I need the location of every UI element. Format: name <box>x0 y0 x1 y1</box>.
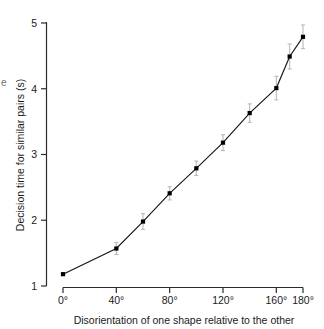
y-axis: 12345 Decision time for similar pairs (s… <box>14 17 47 292</box>
data-point-marker <box>288 54 292 58</box>
y-axis-ticks <box>41 23 47 286</box>
partial-figure-label: e <box>1 77 7 88</box>
data-point-marker <box>168 191 172 195</box>
y-tick-label: 1 <box>31 280 37 292</box>
data-point-marker <box>248 111 252 115</box>
data-point-marker <box>301 35 305 39</box>
y-axis-title: Decision time for similar pairs (s) <box>14 79 26 231</box>
y-axis-tick-labels: 12345 <box>31 17 37 292</box>
x-tick-label: 40° <box>108 294 124 306</box>
y-tick-label: 4 <box>31 83 37 95</box>
x-axis: 0°40°80°120°160°180° Disorientation of o… <box>58 288 314 327</box>
data-point-marker <box>141 219 145 223</box>
data-point-marker <box>114 246 118 250</box>
data-line <box>63 37 303 274</box>
data-point-marker <box>194 166 198 170</box>
data-point-marker <box>221 141 225 145</box>
y-tick-label: 2 <box>31 214 37 226</box>
series-polyline <box>63 37 303 274</box>
x-tick-label: 160° <box>265 294 287 306</box>
y-tick-label: 3 <box>31 148 37 160</box>
partial-figure-label-text: e <box>1 77 7 88</box>
data-markers <box>61 35 305 277</box>
x-axis-title: Disorientation of one shape relative to … <box>74 314 295 326</box>
x-tick-label: 0° <box>58 294 68 306</box>
data-point-marker <box>274 86 278 90</box>
x-tick-label: 120° <box>212 294 234 306</box>
y-tick-label: 5 <box>31 17 37 29</box>
chart-svg: e 12345 Decision time for similar pairs … <box>0 0 324 329</box>
x-axis-ticks <box>63 288 303 294</box>
figure-panel: e 12345 Decision time for similar pairs … <box>0 0 324 329</box>
data-point-marker <box>61 272 65 276</box>
x-tick-label: 180° <box>292 294 314 306</box>
x-tick-label: 80° <box>162 294 178 306</box>
x-axis-tick-labels: 0°40°80°120°160°180° <box>58 294 314 306</box>
